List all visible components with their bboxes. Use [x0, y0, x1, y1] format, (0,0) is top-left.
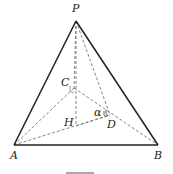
edge-CB	[74, 88, 158, 145]
label-C: C	[61, 76, 70, 89]
label-H: H	[63, 116, 74, 129]
label-P: P	[71, 2, 80, 15]
tetrahedron-diagram: P A B C H D α	[0, 0, 173, 174]
label-A: A	[9, 149, 18, 162]
label-D: D	[106, 118, 116, 131]
caption-fragment	[66, 172, 94, 174]
label-alpha: α	[94, 106, 102, 119]
edge-HD	[76, 115, 110, 126]
edge-PB	[76, 21, 158, 145]
label-B: B	[153, 149, 162, 162]
